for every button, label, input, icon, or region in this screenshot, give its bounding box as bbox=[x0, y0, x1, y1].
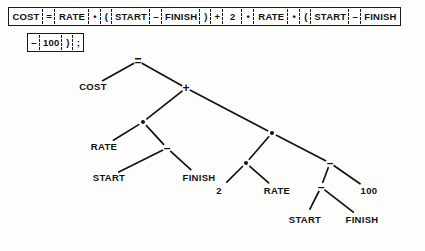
tree-node-multiply bbox=[244, 161, 248, 165]
tree-node-multiply bbox=[270, 131, 274, 135]
tree-edge bbox=[190, 90, 267, 130]
tree-node-operator: = bbox=[134, 55, 141, 67]
tree-node-operand: COST bbox=[79, 81, 107, 92]
tree-node-operator: + bbox=[182, 82, 189, 94]
tree-edge bbox=[171, 151, 191, 169]
tree-node-multiply bbox=[141, 120, 145, 124]
tree-node-operand: 2 bbox=[216, 185, 222, 196]
tree-edge bbox=[334, 166, 360, 184]
tree-node-operand: RATE bbox=[91, 141, 117, 152]
tree-edge bbox=[325, 190, 353, 212]
tree-node-operand: FINISH bbox=[183, 172, 216, 183]
expression-tree: =COST+RATE–STARTFINISH–2RATE–100STARTFIN… bbox=[0, 0, 425, 251]
tree-edge bbox=[276, 135, 325, 160]
tree-node-operand: START bbox=[93, 172, 125, 183]
tree-edge bbox=[250, 166, 269, 183]
tree-node-operator: – bbox=[164, 142, 171, 154]
tree-edge bbox=[103, 63, 134, 80]
tree-edge bbox=[142, 64, 181, 86]
tree-node-operand: START bbox=[289, 214, 321, 225]
tree-edge bbox=[119, 150, 163, 172]
tree-edge bbox=[249, 137, 268, 159]
tree-node-operator: – bbox=[327, 157, 334, 169]
tree-edge bbox=[227, 167, 243, 183]
tree-edge bbox=[147, 91, 182, 119]
tree-edge bbox=[113, 125, 138, 141]
tree-node-operand: FINISH bbox=[346, 214, 379, 225]
figure-canvas: COST=RATE•(START–FINISH)+2•RATE•(START–F… bbox=[0, 0, 425, 251]
tree-node-operator: – bbox=[318, 181, 325, 193]
tree-edge bbox=[146, 126, 163, 145]
tree-edge bbox=[310, 192, 319, 210]
tree-node-operand: RATE bbox=[264, 185, 290, 196]
tree-node-operand: 100 bbox=[361, 185, 378, 196]
